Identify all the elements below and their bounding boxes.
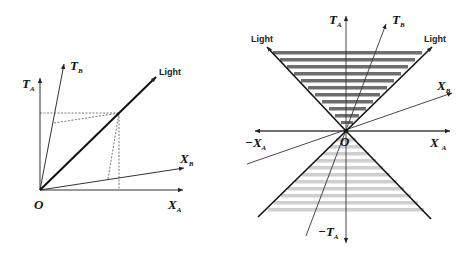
xb-axis	[40, 168, 184, 190]
light-left-label: Light	[251, 34, 273, 44]
left-diagram: Light TA TB XB XA O	[22, 58, 194, 214]
tb-label: TB	[392, 12, 405, 29]
xb-label: XB	[179, 151, 194, 168]
origin-label: O	[34, 197, 44, 212]
xb-label: XB	[436, 78, 451, 95]
ta-label: TA	[22, 76, 35, 93]
right-diagram: Light Light TA TB XB XA −XA O −TA	[245, 12, 452, 243]
neg-ta-label: −TA	[318, 224, 339, 241]
origin-point	[344, 129, 348, 133]
spacetime-diagrams: Light TA TB XB XA O	[0, 0, 475, 254]
tb-label: TB	[70, 58, 83, 75]
origin-label: O	[340, 134, 350, 149]
neg-xa-label: −XA	[245, 135, 267, 152]
future-light-cone-shading	[273, 51, 422, 124]
xa-label: XA	[429, 135, 447, 152]
xa-label: XA	[167, 197, 182, 214]
light-label: Light	[159, 67, 181, 77]
light-right-label: Light	[424, 34, 446, 44]
light-line	[40, 77, 156, 190]
ta-label: TA	[329, 12, 342, 29]
